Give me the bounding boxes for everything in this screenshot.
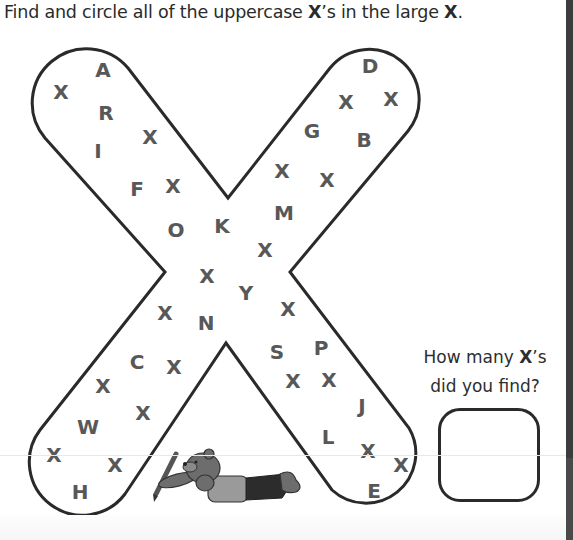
letter-d[interactable]: D xyxy=(362,56,379,76)
letter-x[interactable]: X xyxy=(285,371,300,391)
letter-a[interactable]: A xyxy=(95,60,110,80)
letter-w[interactable]: W xyxy=(77,417,99,437)
letter-x[interactable]: X xyxy=(393,455,408,475)
letter-x[interactable]: X xyxy=(142,127,157,147)
letter-j[interactable]: J xyxy=(358,396,365,416)
page-fold-line xyxy=(0,455,566,456)
question-prefix: How many xyxy=(423,347,519,367)
letter-x[interactable]: X xyxy=(274,161,289,181)
letter-x[interactable]: X xyxy=(107,455,122,475)
letter-x[interactable]: X xyxy=(199,266,214,286)
letter-x[interactable]: X xyxy=(95,376,110,396)
page-bottom-shade xyxy=(0,515,566,540)
letter-b[interactable]: B xyxy=(356,130,371,150)
letter-x[interactable]: X xyxy=(280,299,295,319)
letter-m[interactable]: M xyxy=(274,203,294,223)
question-text: How many X’s did you find? xyxy=(420,343,550,401)
letter-p[interactable]: P xyxy=(314,338,329,358)
letter-x[interactable]: X xyxy=(383,89,398,109)
question-bold-x: X xyxy=(519,347,532,367)
page-edge-lower xyxy=(566,458,573,540)
letter-r[interactable]: R xyxy=(98,103,113,123)
letter-c[interactable]: C xyxy=(130,352,145,372)
page-edge-strip xyxy=(566,0,573,540)
letter-x[interactable]: X xyxy=(53,82,68,102)
question-line-2: did you find? xyxy=(420,372,550,401)
bear-illustration xyxy=(153,449,300,502)
letter-i[interactable]: I xyxy=(94,141,101,161)
letter-f[interactable]: F xyxy=(130,179,144,199)
letter-x[interactable]: X xyxy=(338,92,353,112)
letter-x[interactable]: X xyxy=(257,240,272,260)
letter-s[interactable]: S xyxy=(270,342,284,362)
letter-y[interactable]: Y xyxy=(239,283,253,303)
question-line-1: How many X’s xyxy=(420,343,550,372)
letter-k[interactable]: K xyxy=(214,216,230,236)
letter-e[interactable]: E xyxy=(367,481,381,501)
letter-o[interactable]: O xyxy=(167,220,184,240)
letter-x[interactable]: X xyxy=(166,357,181,377)
letter-n[interactable]: N xyxy=(198,313,215,333)
letter-x[interactable]: X xyxy=(157,303,172,323)
letter-x[interactable]: X xyxy=(135,403,150,423)
question-suffix: ’s xyxy=(532,347,546,367)
letter-h[interactable]: H xyxy=(72,482,89,502)
letter-l[interactable]: L xyxy=(322,427,335,447)
letter-g[interactable]: G xyxy=(304,121,320,141)
letter-x[interactable]: X xyxy=(319,170,334,190)
letter-x[interactable]: X xyxy=(360,441,375,461)
letter-x[interactable]: X xyxy=(165,176,180,196)
letter-x[interactable]: X xyxy=(321,370,336,390)
